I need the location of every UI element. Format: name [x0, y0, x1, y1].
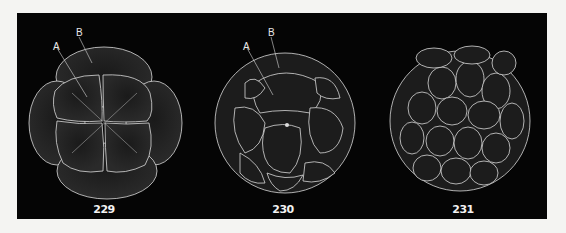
figure-number: 230 [253, 203, 313, 216]
label-b: B [268, 27, 275, 38]
label-a: A [53, 41, 60, 52]
figure-231: 231 [372, 13, 547, 219]
embryo-231-drawing [372, 13, 547, 219]
figure-230: A B 230 [195, 13, 370, 219]
figure-229: A B 229 [17, 13, 192, 219]
embryo-229-drawing [17, 13, 192, 219]
figure-number: 229 [74, 203, 134, 216]
embryo-230-drawing [195, 13, 370, 219]
figure-number: 231 [433, 203, 493, 216]
illustration-plate: A B 229 A B 230 [17, 13, 547, 219]
label-a: A [243, 41, 250, 52]
label-b: B [76, 27, 83, 38]
